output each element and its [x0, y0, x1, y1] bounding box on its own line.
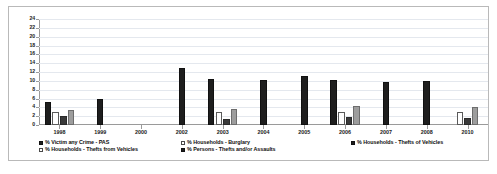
- bar-group: 2000: [121, 19, 162, 125]
- x-axis-label: 2008: [406, 130, 447, 135]
- legend-row-2: % Households - Thefts from Vehicles% Per…: [39, 147, 488, 152]
- bar-group: 1998: [39, 19, 80, 125]
- bar-group: 2008: [406, 19, 447, 125]
- y-axis-label: 22: [29, 25, 35, 30]
- legend-swatch-icon: [181, 148, 185, 152]
- bar-group: 2002: [161, 19, 202, 125]
- bar[interactable]: [216, 112, 223, 125]
- bar[interactable]: [60, 116, 67, 125]
- bar[interactable]: [260, 80, 267, 125]
- x-axis-label: 2006: [325, 130, 366, 135]
- y-axis-label: 8: [32, 87, 35, 92]
- chart-frame: 024681012141618202224 199819992000200220…: [8, 6, 489, 161]
- x-axis-label: 1999: [80, 130, 121, 135]
- bars: [366, 19, 407, 125]
- x-axis-label: 2000: [121, 130, 162, 135]
- x-axis-label: 2007: [366, 130, 407, 135]
- x-axis-label: 2002: [161, 130, 202, 135]
- bars: [325, 19, 366, 125]
- bar[interactable]: [338, 112, 345, 125]
- x-axis-label: 2004: [243, 130, 284, 135]
- bar[interactable]: [330, 80, 337, 125]
- bar-group: 2006: [325, 19, 366, 125]
- y-axis-label: 14: [29, 61, 35, 66]
- legend-swatch-icon: [39, 148, 43, 152]
- bar[interactable]: [231, 109, 238, 125]
- y-axis-label: 0: [32, 122, 35, 127]
- bar-group: 2003: [202, 19, 243, 125]
- bar[interactable]: [208, 79, 215, 125]
- bar[interactable]: [472, 107, 479, 125]
- plot-area: 024681012141618202224 199819992000200220…: [39, 19, 488, 125]
- bars: [202, 19, 243, 125]
- bar-group: 2010: [447, 19, 488, 125]
- y-axis-label: 2: [32, 114, 35, 119]
- bar[interactable]: [45, 102, 52, 125]
- bars: [39, 19, 80, 125]
- bar[interactable]: [383, 82, 390, 125]
- y-axis-label: 24: [29, 16, 35, 21]
- bar[interactable]: [423, 81, 430, 125]
- bar-group: 2005: [284, 19, 325, 125]
- legend-item[interactable]: % Victim any Crime - PAS: [39, 140, 181, 145]
- chart-legend: % Victim any Crime - PAS% Households - B…: [39, 140, 488, 155]
- bars: [161, 19, 202, 125]
- legend-item[interactable]: % Households - Thefts of Vehicles: [351, 140, 443, 145]
- y-axis-label: 12: [29, 69, 35, 74]
- legend-swatch-icon: [351, 141, 355, 145]
- x-axis-label: 2010: [447, 130, 488, 135]
- bars: [121, 19, 162, 125]
- bar-group: 2004: [243, 19, 284, 125]
- bar[interactable]: [464, 118, 471, 126]
- bar[interactable]: [346, 117, 353, 125]
- legend-swatch-icon: [39, 141, 43, 145]
- bars: [80, 19, 121, 125]
- bar[interactable]: [68, 110, 75, 125]
- y-axis-label: 4: [32, 105, 35, 110]
- bar[interactable]: [97, 99, 104, 126]
- y-tick-mark: [36, 125, 39, 126]
- x-axis-label: 2003: [202, 130, 243, 135]
- bar[interactable]: [179, 68, 186, 125]
- y-axis-label: 18: [29, 43, 35, 48]
- bar[interactable]: [223, 119, 230, 125]
- legend-swatch-icon: [181, 141, 185, 145]
- legend-label: % Households - Burglary: [187, 140, 250, 145]
- bar-groups: 1998199920002002200320042005200620072008…: [39, 19, 488, 125]
- legend-item[interactable]: % Households - Thefts from Vehicles: [39, 147, 181, 152]
- y-axis-label: 20: [29, 34, 35, 39]
- legend-label: % Persons - Thefts and/or Assaults: [187, 147, 276, 152]
- legend-row-1: % Victim any Crime - PAS% Households - B…: [39, 140, 488, 145]
- bar-group: 2007: [366, 19, 407, 125]
- bars: [406, 19, 447, 125]
- bar[interactable]: [301, 76, 308, 125]
- x-axis-label: 1998: [39, 130, 80, 135]
- bars: [447, 19, 488, 125]
- y-axis-label: 16: [29, 52, 35, 57]
- bar[interactable]: [457, 112, 464, 125]
- y-axis-label: 10: [29, 78, 35, 83]
- legend-label: % Victim any Crime - PAS: [45, 140, 109, 145]
- y-axis-label: 6: [32, 96, 35, 101]
- bars: [284, 19, 325, 125]
- legend-item[interactable]: % Households - Burglary: [181, 140, 351, 145]
- legend-item[interactable]: % Persons - Thefts and/or Assaults: [181, 147, 276, 152]
- bars: [243, 19, 284, 125]
- legend-label: % Households - Thefts of Vehicles: [357, 140, 443, 145]
- bar-group: 1999: [80, 19, 121, 125]
- x-axis-label: 2005: [284, 130, 325, 135]
- chart-screenshot: 024681012141618202224 199819992000200220…: [0, 0, 497, 174]
- bar[interactable]: [52, 112, 59, 125]
- legend-label: % Households - Thefts from Vehicles: [45, 147, 138, 152]
- bar[interactable]: [353, 106, 360, 125]
